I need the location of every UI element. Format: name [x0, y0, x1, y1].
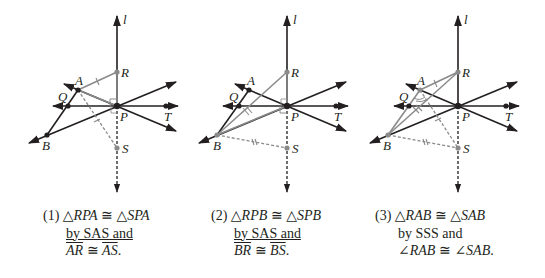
congruent-symbol: ≅: [101, 208, 113, 223]
label-t: T: [505, 109, 513, 124]
justification: by SSS and: [398, 226, 463, 241]
label-r: R: [120, 65, 129, 80]
label-l: l: [464, 12, 468, 27]
point-s: [455, 145, 460, 150]
label-l: l: [293, 12, 297, 27]
point-t: [503, 103, 508, 108]
congruent-symbol: ≅: [87, 243, 99, 258]
panel-1-figure: l R A Q P T B S: [29, 12, 178, 192]
point-q: [236, 103, 241, 108]
label-b: B: [42, 138, 50, 153]
point-q: [65, 103, 70, 108]
justification: by SAS and: [234, 226, 301, 241]
point-a: [417, 87, 422, 92]
panel-3-figure: l R A Q P T B S: [370, 12, 519, 192]
label-l: l: [123, 12, 127, 27]
caption-3: (3) △RAB ≅ △SAB by SSS and ∠RAB ≅ ∠SAB.: [375, 207, 494, 260]
point-b: [44, 132, 49, 137]
triangle-2: △SAB: [450, 208, 485, 223]
point-r: [284, 69, 289, 74]
line-bp: [29, 82, 176, 143]
triangle-1: △RAB: [395, 208, 431, 223]
segment-2: AS: [102, 243, 118, 258]
segment-bs-dashed: [217, 135, 287, 148]
label-b: B: [213, 138, 221, 153]
panel-2-figure: l R A Q P T B S: [199, 12, 348, 192]
label-r: R: [461, 65, 470, 80]
triangle-1: △RPA: [63, 208, 98, 223]
label-t: T: [164, 109, 172, 124]
congruent-symbol: ≅: [255, 243, 267, 258]
label-p: P: [290, 109, 299, 124]
label-a: A: [416, 73, 425, 88]
label-p: P: [461, 109, 470, 124]
caption-2: (2) △RPB ≅ △SPB by SAS and BR ≅ BS.: [211, 207, 321, 260]
justification: by SAS and: [66, 226, 133, 241]
label-s: S: [463, 141, 470, 156]
caption-number: (3): [375, 207, 391, 225]
congruent-symbol: ≅: [439, 243, 451, 258]
label-b: B: [383, 138, 391, 153]
label-a: A: [74, 73, 83, 88]
segment-bs-dashed: [388, 135, 458, 148]
label-q: Q: [229, 89, 239, 104]
angle-1: ∠RAB: [398, 243, 435, 258]
caption-number: (2): [211, 207, 227, 225]
point-r: [114, 69, 119, 74]
label-r: R: [290, 65, 299, 80]
point-b: [385, 132, 390, 137]
point-s: [114, 145, 119, 150]
segment-1: BR: [234, 243, 251, 258]
label-p: P: [119, 109, 128, 124]
point-r: [455, 69, 460, 74]
point-p: [284, 103, 290, 109]
caption-number: (1): [43, 207, 59, 225]
point-a: [246, 87, 251, 92]
segment-1: AR: [66, 243, 83, 258]
segment-2: BS: [270, 243, 286, 258]
label-t: T: [334, 109, 342, 124]
point-q: [406, 103, 411, 108]
point-b: [214, 132, 219, 137]
label-a: A: [246, 73, 255, 88]
label-q: Q: [399, 89, 409, 104]
label-q: Q: [58, 89, 68, 104]
reflection-diagrams: l R A Q P T B S l R: [0, 0, 545, 200]
caption-1: (1) △RPA ≅ △SPA by SAS and AR ≅ AS.: [43, 207, 150, 260]
point-s: [284, 145, 289, 150]
period: .: [286, 243, 290, 258]
label-s: S: [292, 141, 299, 156]
congruent-symbol: ≅: [271, 208, 283, 223]
point-t: [333, 103, 338, 108]
point-p: [455, 103, 461, 109]
period: .: [118, 243, 122, 258]
triangle-2: △SPB: [286, 208, 321, 223]
point-t: [163, 103, 168, 108]
segment-ap: [78, 90, 117, 106]
point-a: [75, 87, 80, 92]
period: .: [490, 243, 494, 258]
label-s: S: [122, 141, 129, 156]
congruent-symbol: ≅: [435, 208, 447, 223]
segment-ar: [420, 72, 458, 90]
line-bp: [370, 82, 517, 143]
triangle-2: △SPA: [116, 208, 149, 223]
triangle-1: △RPB: [231, 208, 267, 223]
angle-2: ∠SAB: [454, 243, 490, 258]
